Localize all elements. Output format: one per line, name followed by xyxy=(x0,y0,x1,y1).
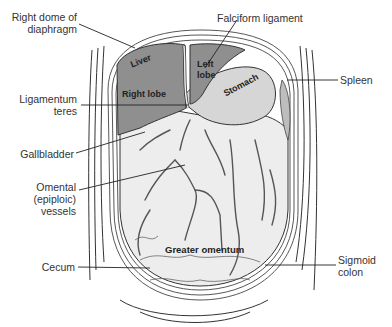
label-line: Spleen xyxy=(340,74,373,86)
organ-label-left-lobe-line2: lobe xyxy=(197,70,216,80)
label-line: Cecum xyxy=(3,261,75,273)
label-right-dome-of-diaphragm: Right dome of diaphragm xyxy=(3,11,77,35)
label-line: Sigmoid xyxy=(338,254,376,266)
anatomy-illustration xyxy=(0,0,392,327)
left-body-wall-line xyxy=(89,50,92,280)
label-line: diaphragm xyxy=(3,23,77,35)
greater-omentum-shape xyxy=(120,108,288,286)
label-ligamentum-teres: Ligamentum teres xyxy=(3,93,77,117)
label-line: teres xyxy=(3,105,77,117)
label-line: colon xyxy=(338,266,376,278)
label-line: Ligamentum xyxy=(3,93,77,105)
organ-label-left-lobe-line1: Left xyxy=(197,59,214,69)
label-line: (epiploic) xyxy=(3,193,76,205)
label-line: Omental xyxy=(3,181,76,193)
abdominal-anatomy-diagram: Right dome of diaphragm Ligamentum teres… xyxy=(0,0,392,327)
label-falciform-ligament: Falciform ligament xyxy=(217,12,303,24)
label-omental-vessels: Omental (epiploic) vessels xyxy=(3,181,76,217)
label-cecum: Cecum xyxy=(3,261,75,273)
label-line: Right dome of xyxy=(3,11,77,23)
organ-label-greater-omentum: Greater omentum xyxy=(165,245,244,255)
organ-label-right-lobe: Right lobe xyxy=(122,89,166,99)
label-line: vessels xyxy=(3,205,76,217)
label-line: Falciform ligament xyxy=(217,12,303,24)
label-spleen: Spleen xyxy=(340,74,373,86)
label-sigmoid-colon: Sigmoid colon xyxy=(338,254,376,278)
label-line: Gallbladder xyxy=(3,148,74,160)
label-gallbladder: Gallbladder xyxy=(3,148,74,160)
